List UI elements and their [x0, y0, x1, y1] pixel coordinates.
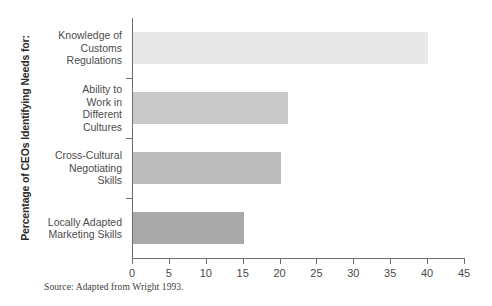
- x-axis-tick-label: 5: [149, 267, 189, 279]
- x-axis-tick: [243, 258, 244, 264]
- x-axis-tick-label: 15: [223, 267, 263, 279]
- y-axis-tick: [126, 198, 132, 199]
- x-axis-tick: [427, 258, 428, 264]
- x-axis-tick-label: 30: [333, 267, 373, 279]
- x-axis-tick-label: 20: [260, 267, 300, 279]
- x-axis-tick-label: 10: [186, 267, 226, 279]
- x-axis-tick-label: 25: [296, 267, 336, 279]
- plot-area: 051015202530354045: [132, 18, 464, 258]
- x-axis-tick-label: 40: [407, 267, 447, 279]
- source-note: Source: Adapted from Wright 1993.: [44, 282, 184, 292]
- x-axis-tick: [132, 258, 133, 264]
- x-axis-tick: [464, 258, 465, 264]
- bar: [133, 212, 244, 244]
- x-axis-tick-label: 35: [370, 267, 410, 279]
- y-axis-tick: [126, 138, 132, 139]
- x-axis-tick: [206, 258, 207, 264]
- x-axis-tick: [353, 258, 354, 264]
- x-axis-tick: [390, 258, 391, 264]
- x-axis-tick-label: 45: [444, 267, 484, 279]
- x-axis-tick: [169, 258, 170, 264]
- bar: [133, 152, 281, 184]
- y-axis-tick: [126, 78, 132, 79]
- x-axis-line: [132, 258, 465, 259]
- category-label: Knowledge ofCustomsRegulations: [12, 29, 122, 67]
- category-labels: Knowledge ofCustomsRegulationsAbility to…: [0, 18, 132, 258]
- x-axis-tick: [280, 258, 281, 264]
- bar: [133, 32, 428, 64]
- chart-figure: Percentage of CEOs Identifying Needs for…: [0, 0, 492, 306]
- x-axis-tick-label: 0: [112, 267, 152, 279]
- category-label: Ability toWork inDifferentCultures: [12, 83, 122, 133]
- category-label: Locally AdaptedMarketing Skills: [12, 216, 122, 241]
- x-axis-tick: [316, 258, 317, 264]
- category-label: Cross-CulturalNegotiatingSkills: [12, 149, 122, 187]
- bar: [133, 92, 288, 124]
